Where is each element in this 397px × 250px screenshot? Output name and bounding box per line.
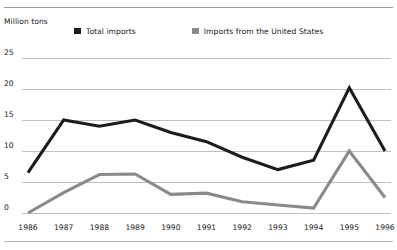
x-axis-tick-label: 1996	[375, 223, 394, 232]
series-group	[28, 88, 385, 213]
x-axis-tick-label: 1993	[268, 223, 287, 232]
x-axis-tick-label: 1992	[233, 223, 252, 232]
bottom-divider-rule	[4, 241, 393, 242]
y-axis-tick-label: 15	[4, 110, 14, 119]
y-axis-tick-label: 20	[4, 79, 14, 88]
y-axis-tick-label: 5	[4, 172, 9, 181]
x-axis-tick-label: 1989	[125, 223, 144, 232]
x-axis-tick-label: 1990	[161, 223, 180, 232]
plot-canvas	[0, 0, 397, 250]
x-axis-tick-label: 1988	[90, 223, 109, 232]
x-axis-tick-label: 1991	[197, 223, 216, 232]
x-axis-tick-label: 1994	[304, 223, 323, 232]
chart-figure: Million tons Total imports Imports from …	[0, 0, 397, 250]
y-axis-tick-label: 0	[4, 203, 9, 212]
y-axis-tick-label: 10	[4, 141, 14, 150]
plot-area	[0, 0, 397, 250]
x-axis-tick-label: 1987	[54, 223, 73, 232]
series-line-imports-from-us	[28, 151, 385, 213]
x-axis-tick-label: 1986	[18, 223, 37, 232]
y-axis-tick-label: 25	[4, 48, 14, 57]
x-axis-tick-label: 1995	[340, 223, 359, 232]
series-line-total-imports	[28, 88, 385, 173]
gridlines-group	[22, 59, 391, 214]
